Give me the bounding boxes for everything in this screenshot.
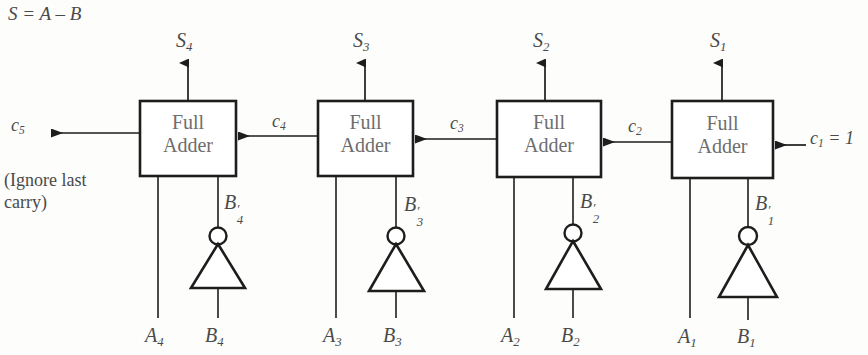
b-not-label-4: B′4: [224, 192, 245, 212]
circuit-schematic-svg: [0, 0, 868, 355]
b-not-label-2: B′2: [580, 191, 601, 211]
input-label-b3: B3: [383, 325, 402, 349]
sum-label-4: S4: [176, 30, 192, 54]
full-adder-label-4: Full Adder: [140, 111, 236, 157]
sum-label-2: S2: [533, 30, 549, 54]
input-label-a3: A3: [323, 325, 342, 349]
carry-label-c2: c2: [628, 117, 642, 138]
full-adder-label-2: Full Adder: [497, 111, 601, 157]
carry-label-c3: c3: [450, 114, 464, 135]
input-label-b1: B1: [737, 326, 756, 350]
full-adder-label-2-line2: Adder: [497, 134, 601, 157]
sum-label-1: S1: [710, 30, 726, 54]
input-label-a2: A2: [501, 325, 520, 349]
full-adder-label-1-line1: Full: [672, 112, 773, 135]
carry-label-c4: c4: [272, 112, 286, 133]
input-label-a4: A4: [145, 325, 164, 349]
ignore-carry-note-line2: carry): [4, 192, 47, 214]
equation-title: S = A – B: [8, 4, 81, 23]
inverter-bubble-1: [739, 227, 757, 245]
full-adder-label-2-line1: Full: [497, 111, 601, 134]
full-adder-label-4-line1: Full: [140, 111, 236, 134]
full-adder-label-1-line2: Adder: [672, 135, 773, 158]
full-adder-label-4-line2: Adder: [140, 134, 236, 157]
ignore-carry-note-line1: (Ignore last: [4, 170, 86, 192]
input-label-b4: B4: [205, 325, 224, 349]
carry-in-c1-label: c1 = 1: [810, 129, 854, 150]
full-adder-label-3-line2: Adder: [318, 134, 413, 157]
circuit-diagram: S = A – B (Ignore last carry) c5 c1 = 1 …: [0, 0, 868, 355]
inverter-triangle-1: [719, 245, 777, 297]
carry-out-c5-label: c5: [11, 116, 25, 137]
inverter-triangle-3: [369, 244, 424, 291]
sum-label-3: S3: [353, 30, 369, 54]
input-label-b2: B2: [561, 325, 580, 349]
full-adder-label-3: Full Adder: [318, 111, 413, 157]
full-adder-label-3-line1: Full: [318, 111, 413, 134]
inverter-triangle-4: [191, 244, 245, 288]
full-adder-label-1: Full Adder: [672, 112, 773, 158]
b-not-label-1: B′1: [755, 193, 776, 213]
input-label-a1: A1: [678, 326, 697, 350]
b-not-label-3: B′3: [404, 194, 425, 214]
inverter-triangle-2: [546, 241, 601, 289]
